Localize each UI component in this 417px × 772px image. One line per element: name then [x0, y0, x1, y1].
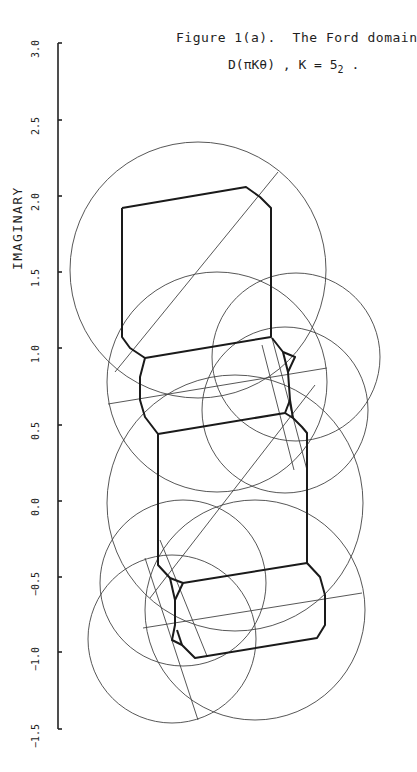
y-tick-label: 2.5 [30, 117, 41, 135]
y-tick-label: −1.0 [30, 647, 41, 671]
isometric-circles [70, 142, 380, 723]
y-tick-label: 1.0 [30, 345, 41, 363]
construction-lines [108, 172, 362, 720]
figure-title: Figure 1(a). The Ford domain [176, 30, 417, 45]
y-axis [58, 43, 62, 729]
y-tick-label: 2.0 [30, 193, 41, 211]
y-tick-label: −1.5 [30, 724, 41, 748]
y-tick-label: 1.5 [30, 269, 41, 287]
y-tick-label: 0.5 [30, 422, 41, 440]
figure-subtitle: D(πKθ) , K = 52 . [228, 57, 359, 75]
y-tick-label: 3.0 [30, 40, 41, 58]
y-tick-label: 0.0 [30, 498, 41, 516]
y-axis-label: IMAGINARY [10, 186, 25, 270]
subtitle-end: . [344, 57, 360, 72]
y-tick-label: −0.5 [30, 572, 41, 596]
subtitle-main: D(πKθ) , K = 5 [228, 57, 338, 72]
